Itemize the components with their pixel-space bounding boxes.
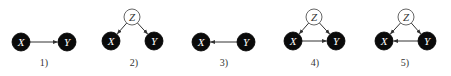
- diagram-3: XY3): [192, 33, 255, 69]
- node-y: Y: [145, 32, 163, 50]
- node-z: Z: [124, 9, 140, 25]
- diagram-caption: 3): [220, 57, 228, 69]
- node-x: X: [12, 33, 30, 51]
- diagram-canvas: XY1)ZXY2)XY3)ZXY4)ZXY5): [0, 0, 451, 76]
- node-label: X: [17, 36, 26, 48]
- node-label: X: [107, 35, 116, 47]
- diagram-caption: 5): [401, 57, 409, 69]
- node-label: Z: [129, 11, 136, 23]
- diagram-4: ZXY4): [284, 9, 345, 69]
- node-label: X: [380, 35, 389, 47]
- node-y: Y: [418, 32, 436, 50]
- node-z: Z: [306, 9, 322, 25]
- node-y: Y: [58, 33, 76, 51]
- diagram-1: XY1): [12, 33, 76, 69]
- edge-z-to-x: [299, 23, 308, 34]
- node-y: Y: [237, 33, 255, 51]
- node-label: X: [197, 36, 206, 48]
- diagram-5: ZXY5): [375, 9, 436, 69]
- node-label: Z: [403, 11, 410, 23]
- edge-z-to-y: [319, 23, 329, 34]
- diagram-caption: 4): [311, 57, 319, 69]
- edge-z-to-x: [390, 23, 400, 34]
- node-x: X: [192, 33, 210, 51]
- edge-z-to-x: [117, 23, 126, 34]
- diagram-2: ZXY2): [102, 9, 163, 69]
- node-y: Y: [327, 32, 345, 50]
- node-label: Z: [311, 11, 318, 23]
- causal-diagrams-figure: XY1)ZXY2)XY3)ZXY4)ZXY5): [0, 0, 451, 76]
- edge-z-to-y: [411, 23, 420, 34]
- node-x: X: [375, 32, 393, 50]
- diagrams-layer: XY1)ZXY2)XY3)ZXY4)ZXY5): [12, 9, 436, 69]
- diagram-caption: 1): [40, 57, 48, 69]
- node-x: X: [284, 32, 302, 50]
- node-z: Z: [398, 9, 414, 25]
- node-x: X: [102, 32, 120, 50]
- node-label: X: [289, 35, 298, 47]
- diagram-caption: 2): [130, 57, 138, 69]
- edge-z-to-y: [137, 23, 147, 34]
